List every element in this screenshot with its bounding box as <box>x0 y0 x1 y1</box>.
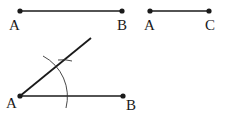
label-a-bottom: A <box>6 95 17 111</box>
point-c-top <box>206 8 211 13</box>
compass-arc-large <box>43 56 67 108</box>
point-b-bottom <box>120 93 125 98</box>
point-b-top <box>119 8 124 13</box>
point-a2-top <box>147 8 152 13</box>
segment-ab-top: A B <box>9 8 127 33</box>
label-b-top: B <box>117 17 127 33</box>
label-a2-top: A <box>144 17 155 33</box>
segment-ac-top: A C <box>144 8 215 33</box>
label-a-top: A <box>9 17 20 33</box>
constructed-ray <box>20 38 91 96</box>
point-a-bottom <box>17 93 22 98</box>
construction-diagram: A B A C A B <box>0 0 229 117</box>
label-c-top: C <box>205 17 215 33</box>
point-a-top <box>17 8 22 13</box>
angle-construction: A B <box>6 38 136 113</box>
label-b-bottom: B <box>126 97 136 113</box>
